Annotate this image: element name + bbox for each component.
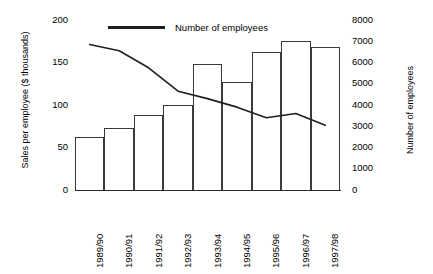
line-series xyxy=(75,20,340,190)
y-tick-left-200: 200 xyxy=(28,14,68,25)
y-tick-right-0: 0 xyxy=(352,184,392,195)
x-category-label: 1992/93 xyxy=(182,234,193,268)
y-tick-right-5000: 5000 xyxy=(352,77,392,88)
y-tick-right-7000: 7000 xyxy=(352,35,392,46)
y-tick-left-50: 50 xyxy=(28,141,68,152)
y-tick-right-8000: 8000 xyxy=(352,14,392,25)
x-category-label: 1994/95 xyxy=(241,234,252,268)
x-category-label: 1995/96 xyxy=(270,234,281,268)
chart-container: Sales per employee ($ thousands) Number … xyxy=(0,0,433,274)
y-axis-right-title: Number of employees xyxy=(405,35,415,185)
y-tick-right-1000: 1000 xyxy=(352,162,392,173)
x-axis-line xyxy=(75,190,341,191)
y-tick-right-3000: 3000 xyxy=(352,120,392,131)
x-category-label: 1990/91 xyxy=(123,234,134,268)
y-tick-right-4000: 4000 xyxy=(352,99,392,110)
x-category-label: 1991/92 xyxy=(153,234,164,268)
x-category-label: 1997/98 xyxy=(329,234,340,268)
x-category-label: 1989/90 xyxy=(94,234,105,268)
y-tick-right-6000: 6000 xyxy=(352,56,392,67)
y-tick-left-150: 150 xyxy=(28,56,68,67)
y-tick-left-100: 100 xyxy=(28,99,68,110)
y-tick-right-2000: 2000 xyxy=(352,141,392,152)
y-tick-left-0: 0 xyxy=(28,184,68,195)
x-category-label: 1993/94 xyxy=(212,234,223,268)
x-category-label: 1996/97 xyxy=(300,234,311,268)
